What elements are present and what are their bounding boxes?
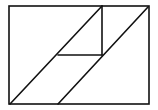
geometric-diagram [0,0,158,110]
